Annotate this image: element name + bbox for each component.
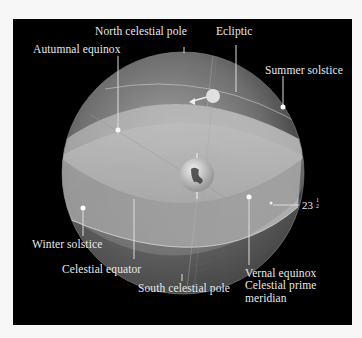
label-vernal-equinox: Vernal equinox [245, 267, 316, 279]
autumnal-equinox-marker [116, 128, 121, 133]
label-south-celestial-pole: South celestial pole [138, 282, 230, 294]
diagram-panel: North celestial pole Ecliptic Autumnal e… [13, 19, 352, 325]
tilt-angle-whole: 23 [302, 199, 313, 211]
vernal-equinox-marker [247, 195, 252, 200]
winter-solstice-marker [81, 206, 86, 211]
label-celestial-prime-meridian: Celestial prime meridian [245, 279, 316, 304]
label-winter-solstice: Winter solstice [32, 238, 102, 250]
label-north-celestial-pole: North celestial pole [95, 25, 187, 37]
summer-solstice-marker [281, 105, 286, 110]
label-autumnal-equinox: Autumnal equinox [33, 43, 121, 55]
label-tilt-angle: 23 1 2 [302, 197, 326, 213]
label-ecliptic: Ecliptic [216, 25, 253, 37]
label-celestial-equator: Celestial equator [62, 263, 141, 275]
tilt-angle-denominator: 2 [316, 203, 319, 209]
sun-icon [206, 89, 220, 103]
label-summer-solstice: Summer solstice [265, 64, 343, 76]
